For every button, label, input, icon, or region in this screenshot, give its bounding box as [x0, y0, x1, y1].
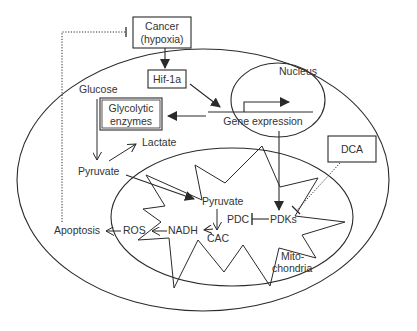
- cancer-hypoxia-box: Cancer (hypoxia): [133, 17, 191, 48]
- svg-text:Cancer: Cancer: [145, 20, 179, 32]
- svg-text:(hypoxia): (hypoxia): [140, 33, 183, 45]
- pathway-diagram: Nucleus Cancer (hypoxia) Hif-1a Gene exp…: [0, 0, 417, 331]
- lactate-label: Lactate: [142, 136, 177, 148]
- svg-text:DCA: DCA: [341, 143, 363, 155]
- pdc-label: PDC: [227, 213, 250, 225]
- apoptosis-label: Apoptosis: [54, 224, 100, 236]
- nucleus-label: Nucleus: [279, 65, 317, 77]
- cell-membrane: [17, 49, 389, 311]
- promoter-arrow: [244, 102, 289, 112]
- dca-inhibits-pdks-line: [297, 163, 340, 210]
- mitochondria-label-1: Mito-: [281, 250, 305, 262]
- glycolytic-enzymes-box: Glycolytic enzymes: [100, 98, 162, 130]
- pyruvate-to-lactate-arrow: [109, 144, 136, 161]
- apoptosis-inhibits-cancer-line: [62, 32, 126, 222]
- dca-box: DCA: [328, 136, 376, 162]
- pdks-label: PDKs: [270, 213, 297, 225]
- glucose-label: Glucose: [79, 83, 118, 95]
- pyruvate-cytosol-label: Pyruvate: [78, 165, 120, 177]
- hif-1a-box: Hif-1a: [148, 70, 186, 88]
- cac-to-nadh-arrow: [204, 229, 213, 230]
- ros-label: ROS: [123, 224, 146, 236]
- nadh-label: NADH: [168, 224, 198, 236]
- pyruvate-transport-arrow: [126, 175, 194, 199]
- svg-text:enzymes: enzymes: [110, 115, 152, 127]
- cac-label: CAC: [207, 232, 230, 244]
- pyruvate-mito-label: Pyruvate: [202, 195, 244, 207]
- svg-text:Glycolytic: Glycolytic: [109, 102, 154, 114]
- gene-expression-label: Gene expression: [223, 115, 303, 127]
- svg-text:Hif-1a: Hif-1a: [153, 73, 181, 85]
- mitochondria-label-2: chondria: [272, 262, 312, 274]
- hif-to-gene-arrow: [190, 84, 220, 107]
